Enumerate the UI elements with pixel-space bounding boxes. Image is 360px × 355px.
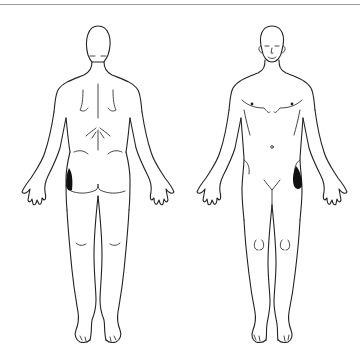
body-chart [0, 0, 360, 355]
back-figure [22, 26, 174, 342]
back-head [86, 26, 110, 62]
front-figure [197, 26, 347, 342]
front-head [260, 26, 283, 62]
